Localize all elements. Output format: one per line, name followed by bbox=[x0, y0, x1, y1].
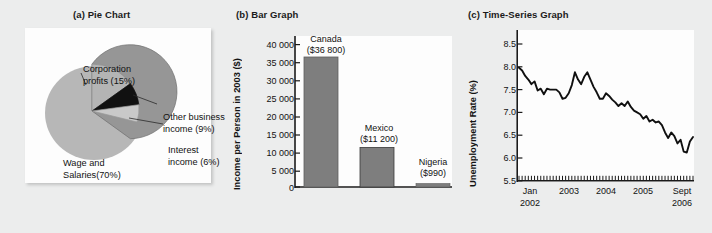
timeseries-plot-area bbox=[516, 30, 694, 182]
pie-label-interest-income: Interest income (6%) bbox=[168, 145, 220, 168]
bar-ytick-40000: 40 000 bbox=[266, 40, 294, 50]
bar-label-canada-name: Canada bbox=[298, 34, 354, 45]
ts-plot-background bbox=[516, 30, 694, 182]
ts-xlabel-0-line1: Jan bbox=[520, 186, 540, 198]
panel-time-series-graph: (c) Time-Series Graph Unemployment Rate … bbox=[460, 0, 712, 233]
bar-y-tick-labels: 40 000 35 000 30 000 25 000 20 000 15 00… bbox=[244, 36, 294, 188]
pie-label-interest-line2: income (6%) bbox=[168, 157, 220, 169]
pie-label-other-line1: Other business bbox=[163, 112, 225, 124]
statistics-figure: (a) Pie Chart Corporation bbox=[0, 0, 712, 233]
ts-ytick-8-5: 8.5 bbox=[503, 39, 516, 49]
ts-ytick-6-5: 6.5 bbox=[503, 130, 516, 140]
ts-xlabel-4-line2: 2006 bbox=[672, 198, 692, 210]
panel-bar-graph: (b) Bar Graph Income per Person in 2003 … bbox=[228, 0, 460, 233]
bar-label-nigeria: Nigeria ($990) bbox=[407, 157, 459, 179]
timeseries-y-tick-labels: 8.5 8.0 7.5 7.0 6.5 6.0 5.5 bbox=[470, 30, 516, 182]
timeseries-x-tick-labels: Jan 2002 2003 2004 2005 Sept 2006 bbox=[516, 186, 700, 220]
bar-nigeria bbox=[416, 184, 450, 188]
ts-xlabel-1-line1: 2003 bbox=[559, 186, 579, 198]
ts-ytick-5-5: 5.5 bbox=[503, 176, 516, 186]
ts-xlabel-2003: 2003 bbox=[559, 186, 579, 198]
ts-ytick-7-0: 7.0 bbox=[503, 107, 516, 117]
bar-ytick-25000: 25 000 bbox=[266, 94, 294, 104]
bar-mexico bbox=[360, 147, 394, 187]
bar-label-nigeria-value: ($990) bbox=[407, 168, 459, 179]
pie-label-wage-salaries: Wage and Salaries(70%) bbox=[63, 158, 121, 181]
bar-ytick-30000: 30 000 bbox=[266, 76, 294, 86]
bar-label-canada: Canada ($36 800) bbox=[298, 34, 354, 56]
pie-label-corporation-profits: Corporation profits (15%) bbox=[83, 64, 135, 87]
ts-xlabel-3-line1: 2005 bbox=[633, 186, 653, 198]
ts-ytick-7-5: 7.5 bbox=[503, 85, 516, 95]
panel-title-pie: (a) Pie Chart bbox=[73, 9, 130, 20]
bar-plot-area: Canada ($36 800) Mexico ($11 200) Nigeri… bbox=[294, 36, 452, 188]
pie-label-interest-line1: Interest bbox=[168, 145, 220, 157]
bar-ytick-35000: 35 000 bbox=[266, 58, 294, 68]
pie-label-wage-line2: Salaries(70%) bbox=[63, 170, 121, 182]
bar-ytick-15000: 15 000 bbox=[266, 130, 294, 140]
ts-xlabel-2-line1: 2004 bbox=[596, 186, 616, 198]
bar-ytick-20000: 20 000 bbox=[266, 112, 294, 122]
bar-y-axis-title: Income per Person in 2003 ($) bbox=[232, 30, 242, 190]
bar-label-mexico-name: Mexico bbox=[351, 123, 407, 134]
panel-pie-chart: (a) Pie Chart Corporation bbox=[0, 0, 228, 233]
ts-xlabel-0-line2: 2002 bbox=[520, 198, 540, 210]
ts-xlabel-4-line1: Sept bbox=[672, 186, 692, 198]
ts-ytick-8-0: 8.0 bbox=[503, 62, 516, 72]
bar-label-mexico: Mexico ($11 200) bbox=[351, 123, 407, 145]
ts-xlabel-jan-2002: Jan 2002 bbox=[520, 186, 540, 209]
bar-ytick-10000: 10 000 bbox=[266, 148, 294, 158]
timeseries-svg bbox=[516, 30, 694, 182]
pie-label-corporation-line2: profits (15%) bbox=[83, 76, 135, 88]
pie-label-corporation-line1: Corporation bbox=[83, 64, 135, 76]
pie-chart-area: Corporation profits (15%) Other business… bbox=[25, 28, 211, 183]
ts-ytick-6-0: 6.0 bbox=[503, 153, 516, 163]
ts-xlabel-2005: 2005 bbox=[633, 186, 653, 198]
bar-canada bbox=[304, 57, 338, 187]
bar-label-canada-value: ($36 800) bbox=[298, 45, 354, 56]
panel-title-bar: (b) Bar Graph bbox=[236, 9, 299, 20]
ts-xlabel-2004: 2004 bbox=[596, 186, 616, 198]
ts-xlabel-sept-2006: Sept 2006 bbox=[672, 186, 692, 209]
panel-title-timeseries: (c) Time-Series Graph bbox=[468, 9, 569, 20]
pie-label-wage-line1: Wage and bbox=[63, 158, 121, 170]
bar-label-nigeria-name: Nigeria bbox=[407, 157, 459, 168]
bar-label-mexico-value: ($11 200) bbox=[351, 134, 407, 145]
bar-ytick-5000: 5 000 bbox=[271, 166, 294, 176]
pie-label-other-business-income: Other business income (9%) bbox=[163, 112, 225, 135]
pie-label-other-line2: income (9%) bbox=[163, 124, 225, 136]
